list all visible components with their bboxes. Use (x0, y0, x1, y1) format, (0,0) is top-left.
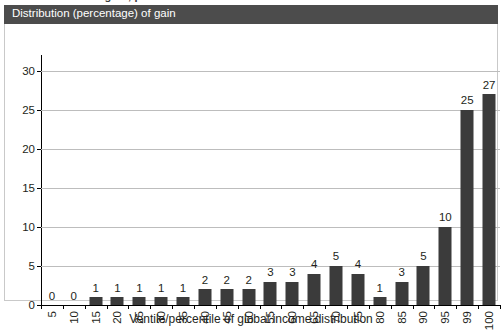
bar-value-label: 10 (439, 212, 452, 224)
bar-slot[interactable]: 475 (347, 55, 369, 305)
bar[interactable] (111, 297, 124, 305)
bar-value-label: 0 (49, 291, 55, 303)
bar-value-label: 4 (355, 259, 361, 271)
bar-slot[interactable]: 27100 (478, 55, 500, 305)
bar-value-label: 1 (92, 283, 98, 295)
x-tick-mark (260, 305, 261, 309)
bar[interactable] (286, 282, 299, 305)
bar-value-label: 25 (461, 95, 474, 107)
bar-value-label: 3 (289, 267, 295, 279)
y-tick-label: 15 (22, 182, 35, 194)
bar-value-label: 1 (114, 283, 120, 295)
x-tick-mark (238, 305, 239, 309)
bar-value-label: 2 (202, 275, 208, 287)
bar[interactable] (351, 274, 364, 305)
bar[interactable] (133, 297, 146, 305)
x-tick-mark (150, 305, 151, 309)
x-tick-mark (172, 305, 173, 309)
x-tick-mark (216, 305, 217, 309)
x-tick-mark (456, 305, 457, 309)
bar-value-label: 1 (136, 283, 142, 295)
bar[interactable] (264, 282, 277, 305)
bar-slot[interactable]: 465 (303, 55, 325, 305)
x-tick-mark (128, 305, 129, 309)
bar[interactable] (308, 274, 321, 305)
bar-value-label: 27 (483, 80, 496, 92)
bar[interactable] (439, 227, 452, 305)
x-tick-mark (63, 305, 64, 309)
bar-slot[interactable]: 250 (238, 55, 260, 305)
x-tick-mark (85, 305, 86, 309)
x-tick-mark (500, 305, 501, 309)
bar-slot[interactable]: 1095 (434, 55, 456, 305)
bar-slot[interactable]: 125 (128, 55, 150, 305)
bar[interactable] (461, 110, 474, 305)
bar-value-label: 1 (158, 283, 164, 295)
bar-value-label: 1 (180, 283, 186, 295)
bar[interactable] (483, 94, 496, 305)
bar[interactable] (177, 297, 190, 305)
y-tick-label: 0 (29, 299, 35, 311)
chart-title: Distribution (percentage) of gain (12, 7, 176, 19)
x-tick-mark (369, 305, 370, 309)
bar-slot[interactable]: 240 (194, 55, 216, 305)
chart-title-banner: Distribution (percentage) of gain (4, 5, 498, 24)
bar[interactable] (242, 289, 255, 305)
y-tick-label: 25 (22, 104, 35, 116)
bar[interactable] (330, 266, 343, 305)
x-tick-mark (303, 305, 304, 309)
x-tick-mark (413, 305, 414, 309)
bar-slot[interactable]: 010 (63, 55, 85, 305)
bar-slot[interactable]: 2599 (456, 55, 478, 305)
x-tick-mark (434, 305, 435, 309)
bar-slot[interactable]: 180 (369, 55, 391, 305)
x-tick-mark (107, 305, 108, 309)
x-axis-baseline (41, 305, 500, 306)
bar-value-label: 5 (333, 251, 339, 263)
bar-value-label: 4 (311, 259, 317, 271)
cropped-text-fragment-label: distribution of the gain, percent (4, 0, 176, 2)
bar-slot[interactable]: 355 (260, 55, 282, 305)
bar-value-label: 1 (377, 283, 383, 295)
bar-value-label: 0 (71, 291, 77, 303)
x-tick-mark (281, 305, 282, 309)
bar[interactable] (155, 297, 168, 305)
bar-slot[interactable]: 385 (391, 55, 413, 305)
x-tick-mark (194, 305, 195, 309)
x-tick-mark (347, 305, 348, 309)
plot-inner: 0510152025300501011512012513013524024525… (41, 55, 500, 305)
x-tick-mark (391, 305, 392, 309)
x-tick-mark (478, 305, 479, 309)
bar-slot[interactable]: 245 (216, 55, 238, 305)
bar-value-label: 2 (224, 275, 230, 287)
bar[interactable] (417, 266, 430, 305)
bar-value-label: 5 (420, 251, 426, 263)
chart-frame: 0510152025300501011512012513013524024525… (4, 24, 498, 301)
bar-slot[interactable]: 135 (172, 55, 194, 305)
bar-slot[interactable]: 05 (41, 55, 63, 305)
bar[interactable] (373, 297, 386, 305)
plot-area: 0510152025300501011512012513013524024525… (41, 55, 500, 305)
bar[interactable] (395, 282, 408, 305)
bar[interactable] (198, 289, 211, 305)
bar-slot[interactable]: 360 (281, 55, 303, 305)
bar-value-label: 3 (398, 267, 404, 279)
bar-slot[interactable]: 130 (150, 55, 172, 305)
x-tick-mark (325, 305, 326, 309)
x-tick-mark (41, 305, 42, 309)
bar-value-label: 3 (267, 267, 273, 279)
bar-slot[interactable]: 570 (325, 55, 347, 305)
y-tick-label: 10 (22, 221, 35, 233)
bar-slot[interactable]: 120 (107, 55, 129, 305)
y-tick-label: 5 (29, 260, 35, 272)
bar-slot[interactable]: 590 (413, 55, 435, 305)
y-tick-label: 20 (22, 143, 35, 155)
bar-slot[interactable]: 115 (85, 55, 107, 305)
bar[interactable] (89, 297, 102, 305)
x-axis-title: Ventile/percentile of global income dist… (0, 312, 502, 326)
bar[interactable] (220, 289, 233, 305)
bar-value-label: 2 (245, 275, 251, 287)
y-tick-label: 30 (22, 65, 35, 77)
